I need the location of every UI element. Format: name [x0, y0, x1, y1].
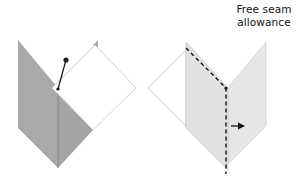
pin-point-icon: [56, 87, 59, 90]
back-white-panel: [148, 50, 186, 126]
right-figure: [148, 42, 266, 174]
left-dark-panel: [18, 40, 58, 168]
label-line-1: Free seam: [229, 3, 299, 16]
stitch-corner-dot: [224, 86, 227, 89]
left-light-panel: [186, 42, 228, 170]
seam-diagram: Free seam allowance: [0, 0, 303, 184]
free-seam-allowance-label: Free seam allowance: [229, 3, 299, 29]
label-line-2: allowance: [229, 16, 299, 29]
pin-head-icon: [63, 57, 68, 62]
left-figure: [18, 40, 136, 168]
right-light-panel: [226, 42, 266, 164]
